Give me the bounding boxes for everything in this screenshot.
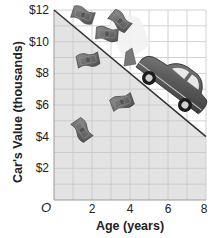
x-tick-labels: 2468 xyxy=(89,202,208,216)
y-tick-label: $2 xyxy=(36,161,50,175)
x-tick-label: 4 xyxy=(127,202,134,216)
y-axis-title: Car's Value (thousands) xyxy=(11,41,25,183)
y-tick-label: $10 xyxy=(29,35,49,49)
y-tick-label: $6 xyxy=(36,98,50,112)
y-tick-label: $8 xyxy=(36,66,50,80)
x-axis-title: Age (years) xyxy=(96,219,164,233)
x-tick-label: 6 xyxy=(165,202,172,216)
y-tick-label: $4 xyxy=(36,130,50,144)
y-tick-labels: $2$4$6$8$10$12 xyxy=(29,3,49,175)
origin-label: O xyxy=(41,200,51,215)
x-tick-label: 2 xyxy=(89,202,96,216)
y-tick-label: $12 xyxy=(29,3,49,17)
chart: $2$4$6$8$10$12 2468 O Age (years) Car's … xyxy=(0,0,215,238)
x-tick-label: 8 xyxy=(201,202,208,216)
